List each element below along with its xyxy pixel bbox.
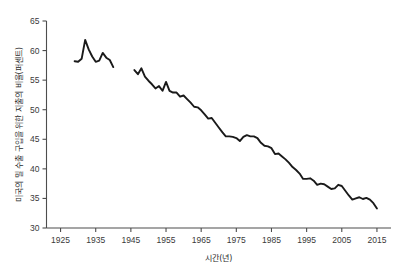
x-tick-label: 1945 bbox=[121, 235, 140, 245]
x-tick-label: 1955 bbox=[157, 235, 176, 245]
chart-svg: 3035404550556065 19251935194519551965197… bbox=[0, 0, 406, 277]
y-tick-label: 60 bbox=[30, 46, 40, 56]
x-axis: 1925193519451955196519751985199520052015 bbox=[47, 228, 392, 245]
x-tick-label: 2015 bbox=[367, 235, 386, 245]
x-tick-label: 1925 bbox=[51, 235, 70, 245]
x-tick-label: 2005 bbox=[332, 235, 351, 245]
x-axis-title: 시간(년) bbox=[205, 253, 232, 263]
x-tick-label: 1975 bbox=[227, 235, 246, 245]
x-tick-label: 1995 bbox=[297, 235, 316, 245]
y-tick-label: 30 bbox=[30, 223, 40, 233]
y-axis-title: 미국의 밀 수출 구입을 위한 지출의 비율(퍼센트) bbox=[14, 47, 24, 202]
x-tick-label: 1965 bbox=[192, 235, 211, 245]
y-tick-label: 65 bbox=[30, 16, 40, 26]
y-tick-label: 45 bbox=[30, 134, 40, 144]
series-line-segment-1 bbox=[75, 40, 114, 67]
y-tick-group: 3035404550556065 bbox=[30, 16, 46, 233]
y-tick-label: 40 bbox=[30, 164, 40, 174]
y-tick-label: 55 bbox=[30, 75, 40, 85]
series-line-segment-2 bbox=[134, 68, 377, 208]
y-tick-label: 35 bbox=[30, 193, 40, 203]
x-tick-label: 1985 bbox=[262, 235, 281, 245]
y-tick-label: 50 bbox=[30, 105, 40, 115]
x-tick-group: 1925193519451955196519751985199520052015 bbox=[51, 228, 387, 245]
wheat-export-expenditure-chart: 3035404550556065 19251935194519551965197… bbox=[0, 0, 406, 277]
y-axis: 3035404550556065 bbox=[30, 16, 46, 233]
x-tick-label: 1935 bbox=[86, 235, 105, 245]
series-group bbox=[75, 40, 377, 209]
